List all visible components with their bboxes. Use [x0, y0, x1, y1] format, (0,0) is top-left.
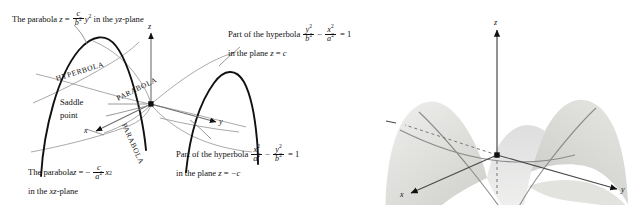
br-f2ne: 2 — [279, 143, 282, 149]
br-text: Part of the hyperbola — [176, 149, 248, 160]
label-hyperbola-z-equals-minus-c: Part of the hyperbola x2 a2 − y2 b2 = 1 … — [176, 146, 299, 178]
right-origin-marker — [494, 152, 499, 157]
bl-tail: -plane — [57, 186, 78, 196]
tr-frac2: x2 a2 — [325, 26, 336, 44]
bl-z: z — [73, 167, 76, 178]
saddle-point-marker — [148, 101, 153, 106]
tl-z: z — [59, 14, 62, 24]
tl-pre: The parabola — [12, 14, 59, 24]
tr-l2pre: in the plane — [228, 48, 270, 58]
label-parabola-yz-plane: The parabola z = c b2 y2 in the yz-plane — [12, 10, 144, 28]
right-panel-surface — [385, 100, 628, 205]
left-x-text: x — [84, 126, 88, 135]
tr-l2post: = — [274, 48, 283, 58]
tr-eq: = 1 — [340, 29, 351, 40]
br-l2val: −c — [231, 168, 241, 178]
right-x-text: x — [400, 190, 404, 199]
left-axis-label-x: x — [84, 126, 88, 136]
tr-frac1: y2 b2 — [303, 26, 314, 44]
br-minus: − — [265, 149, 270, 160]
right-y-text: y — [621, 185, 625, 194]
tr-l2val: c — [283, 48, 287, 58]
right-axis-label-x: x — [400, 190, 404, 200]
tr-f2ne: 2 — [331, 23, 334, 29]
right-axis-label-y: y — [621, 185, 625, 195]
tl-den-exp: 2 — [79, 17, 82, 23]
saddle-line1: Saddle — [60, 97, 83, 108]
br-frac2: y2 b2 — [273, 146, 284, 164]
tl-tail: -plane — [122, 14, 143, 24]
label-hyperbola-z-equals-c: Part of the hyperbola y2 b2 − x2 a2 = 1 … — [228, 26, 351, 58]
bl-frac: c a2 — [93, 164, 104, 182]
tr-f2de: 2 — [331, 33, 334, 39]
tr-text: Part of the hyperbola — [228, 29, 300, 40]
left-z-text: z — [148, 22, 151, 31]
tr-f1de: 2 — [309, 33, 312, 39]
br-f1de: 2 — [257, 153, 260, 159]
saddle-line2: point — [60, 110, 83, 121]
label-parabola-xz-plane: The parabola z = − c a2 x2 in the xz-pla… — [28, 164, 112, 196]
bl-eq: = − — [78, 167, 90, 178]
left-axis-label-z: z — [148, 22, 151, 32]
br-f2de: 2 — [279, 153, 282, 159]
left-y-text: y — [219, 117, 223, 126]
bl-plane: xz — [49, 186, 56, 196]
br-l2pre: in the plane — [176, 168, 218, 178]
right-axis-label-z: z — [494, 18, 497, 28]
tr-minus: − — [317, 29, 322, 40]
bl-l2pre: in the — [28, 186, 49, 196]
label-saddle-point: Saddle point — [60, 97, 83, 120]
bl-den-exp: 2 — [99, 171, 102, 177]
tl-fraction: c b2 — [73, 10, 84, 28]
tr-f1ne: 2 — [309, 23, 312, 29]
right-z-text: z — [494, 18, 497, 27]
left-axis-label-y: y — [219, 117, 223, 127]
br-frac1: x2 a2 — [251, 146, 262, 164]
tl-post: in the — [91, 14, 115, 24]
tl-eq: = — [65, 14, 70, 24]
br-l2post: = — [222, 168, 231, 178]
br-f1ne: 2 — [257, 143, 260, 149]
br-eq: = 1 — [288, 149, 299, 160]
bl-pre: The parabola — [28, 167, 73, 178]
